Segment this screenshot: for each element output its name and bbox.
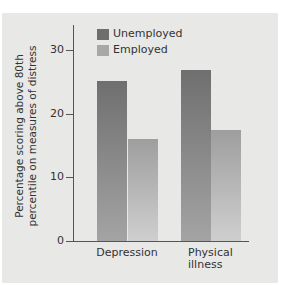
- bar-physical-illness-unemployed: [181, 70, 211, 241]
- y-tick-label-30: 30: [44, 43, 64, 56]
- bar-depression-employed: [128, 139, 158, 241]
- y-axis-label: Percentage scoring above 80th percentile…: [13, 36, 39, 236]
- legend-swatch-employed: [97, 45, 109, 56]
- x-category-depression-line: Depression: [92, 247, 162, 259]
- x-category-physical-illness: Physical illness: [176, 247, 246, 271]
- legend-label-unemployed: Unemployed: [113, 27, 183, 40]
- y-tick-label-20: 20: [44, 107, 64, 120]
- y-axis-label-line-1: Percentage scoring above 80th: [13, 36, 26, 236]
- y-axis: [73, 25, 74, 242]
- x-axis: [73, 241, 249, 242]
- y-tick-label-0: 0: [44, 234, 64, 247]
- y-tick-30: [66, 50, 73, 51]
- x-category-physical-illness-line-2: illness: [188, 259, 246, 271]
- legend-swatch-unemployed: [97, 29, 109, 40]
- legend-label-employed: Employed: [113, 43, 168, 56]
- bar-depression-unemployed: [97, 81, 127, 241]
- y-tick-0: [66, 241, 73, 242]
- y-axis-label-line-2: percentile on measures of distress: [26, 36, 39, 236]
- y-tick-10: [66, 177, 73, 178]
- y-tick-label-10: 10: [44, 170, 64, 183]
- y-tick-20: [66, 114, 73, 115]
- bar-physical-illness-employed: [211, 130, 241, 241]
- x-category-depression: Depression: [92, 247, 162, 259]
